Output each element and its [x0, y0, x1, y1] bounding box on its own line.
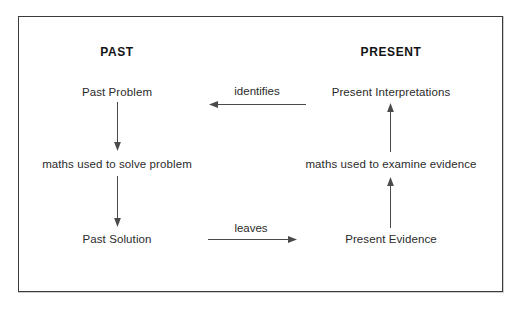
arrow-up-present-maths-to-interpretations: [384, 102, 397, 152]
arrow-down-past-problem-to-maths: [111, 102, 124, 152]
diagram-canvas: PAST PRESENT Past Problem maths used to …: [0, 0, 523, 310]
arrow-up-present-evidence-to-maths: [384, 176, 397, 228]
arrow-down-past-maths-to-solution: [111, 176, 124, 228]
node-present-interpretations: Present Interpretations: [332, 86, 451, 99]
node-past-solution: Past Solution: [82, 233, 151, 246]
arrow-right-leaves: [208, 233, 298, 246]
node-past-maths-used-to-solve-problem: maths used to solve problem: [42, 158, 192, 171]
node-past-problem: Past Problem: [82, 86, 152, 99]
diagram-border-frame: PAST PRESENT Past Problem maths used to …: [18, 16, 503, 292]
column-heading-past: PAST: [100, 45, 134, 59]
node-maths-used-to-examine-evidence: maths used to examine evidence: [305, 158, 476, 171]
column-heading-present: PRESENT: [361, 45, 422, 59]
connector-label-identifies: identifies: [234, 85, 279, 97]
node-present-evidence: Present Evidence: [345, 233, 437, 246]
arrow-left-identifies: [208, 98, 306, 111]
